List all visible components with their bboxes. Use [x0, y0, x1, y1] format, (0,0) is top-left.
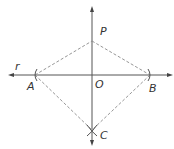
- arrow-down-icon: [90, 140, 94, 146]
- label-point-b: B: [149, 82, 157, 95]
- perpendicular-line: [90, 6, 94, 146]
- arrow-up-icon: [90, 6, 94, 12]
- arrow-right-icon: [167, 73, 173, 77]
- segment-ap: [35, 41, 92, 75]
- label-point-o: O: [95, 78, 104, 91]
- label-point-a: A: [26, 80, 35, 93]
- label-point-p: P: [100, 25, 107, 38]
- label-point-c: C: [100, 129, 108, 142]
- segment-ac: [35, 75, 92, 130]
- label-line-r: r: [15, 60, 21, 73]
- arrow-left-icon: [8, 73, 14, 77]
- construction-diagram: r A O B P C: [0, 0, 174, 149]
- segment-pb: [92, 41, 150, 75]
